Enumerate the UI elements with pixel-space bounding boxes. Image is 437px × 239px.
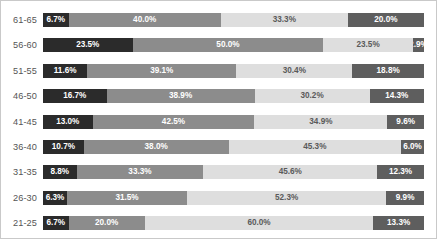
bar-segment: 14.3% <box>370 89 424 103</box>
segment-value-label: 33.3% <box>128 165 151 179</box>
bar-segment: 23.5% <box>43 38 133 52</box>
segment-value-label: 13.0% <box>56 115 79 129</box>
bar-segment: 52.3% <box>187 191 386 205</box>
bar-track: 6.7%20.0%60.0%13.3% <box>43 216 424 230</box>
segment-value-label: 38.9% <box>169 89 192 103</box>
bar-segment: 38.0% <box>84 140 229 154</box>
bar-segment: 20.0% <box>69 216 145 230</box>
category-label-41-45: 41-45 <box>1 115 37 129</box>
chart-plot-area: 61-656.7%40.0%33.3%20.0%56-6023.5%50.0%2… <box>1 1 436 238</box>
segment-value-label: 31.5% <box>115 191 138 205</box>
bar-track: 6.3%31.5%52.3%9.9% <box>43 191 424 205</box>
bar-segment: 50.0% <box>133 38 324 52</box>
bar-segment: 38.9% <box>107 89 255 103</box>
segment-value-label: 14.3% <box>385 89 408 103</box>
segment-value-label: 42.5% <box>162 115 185 129</box>
bar-track: 10.7%38.0%45.3%6.0% <box>43 140 424 154</box>
bar-track: 6.7%40.0%33.3%20.0% <box>43 13 424 27</box>
bar-segment: 6.7% <box>43 13 69 27</box>
bar-segment: 6.0% <box>401 140 424 154</box>
bar-segment: 6.3% <box>43 191 67 205</box>
bar-row: 51-5511.6%39.1%30.4%18.8% <box>1 64 436 78</box>
segment-value-label: 6.3% <box>46 191 65 205</box>
segment-value-label: 6.7% <box>46 13 65 27</box>
segment-value-label: 12.3% <box>389 165 412 179</box>
bar-segment: 8.8% <box>43 165 77 179</box>
bar-segment: 60.0% <box>145 216 374 230</box>
bar-segment: 39.1% <box>87 64 236 78</box>
bar-segment: 40.0% <box>69 13 221 27</box>
segment-value-label: 60.0% <box>247 216 270 230</box>
bar-segment: 18.8% <box>352 64 424 78</box>
segment-value-label: 38.0% <box>145 140 168 154</box>
bar-segment: 11.6% <box>43 64 87 78</box>
segment-value-label: 9.6% <box>396 115 415 129</box>
bar-segment: 13.3% <box>373 216 424 230</box>
bar-segment: 9.6% <box>387 115 424 129</box>
bar-row: 26-306.3%31.5%52.3%9.9% <box>1 191 436 205</box>
bar-row: 36-4010.7%38.0%45.3%6.0% <box>1 140 436 154</box>
category-label-31-35: 31-35 <box>1 165 37 179</box>
bar-segment: 42.5% <box>93 115 255 129</box>
segment-value-label: 13.3% <box>387 216 410 230</box>
category-label-61-65: 61-65 <box>1 13 37 27</box>
bar-segment: 2.9% <box>413 38 424 52</box>
bar-track: 11.6%39.1%30.4%18.8% <box>43 64 424 78</box>
category-label-46-50: 46-50 <box>1 89 37 103</box>
bar-segment: 30.2% <box>255 89 370 103</box>
segment-value-label: 23.5% <box>356 38 379 52</box>
segment-value-label: 40.0% <box>133 13 156 27</box>
segment-value-label: 33.3% <box>273 13 296 27</box>
bar-segment: 10.7% <box>43 140 84 154</box>
category-label-36-40: 36-40 <box>1 140 37 154</box>
segment-value-label: 30.2% <box>300 89 323 103</box>
segment-value-label: 20.0% <box>95 216 118 230</box>
segment-value-label: 2.9% <box>413 38 424 52</box>
segment-value-label: 16.7% <box>63 89 86 103</box>
segment-value-label: 34.9% <box>309 115 332 129</box>
segment-value-label: 39.1% <box>150 64 173 78</box>
bar-row: 56-6023.5%50.0%23.5%2.9% <box>1 38 436 52</box>
bar-segment: 13.0% <box>43 115 93 129</box>
bar-segment: 30.4% <box>236 64 352 78</box>
bar-segment: 9.9% <box>386 191 424 205</box>
segment-value-label: 10.7% <box>52 140 75 154</box>
segment-value-label: 45.6% <box>279 165 302 179</box>
segment-value-label: 23.5% <box>76 38 99 52</box>
bar-segment: 31.5% <box>67 191 187 205</box>
segment-value-label: 11.6% <box>54 64 77 78</box>
bar-segment: 45.3% <box>229 140 402 154</box>
stacked-bar-chart: 61-656.7%40.0%33.3%20.0%56-6023.5%50.0%2… <box>0 0 437 239</box>
bar-track: 8.8%33.3%45.6%12.3% <box>43 165 424 179</box>
bar-row: 46-5016.7%38.9%30.2%14.3% <box>1 89 436 103</box>
bar-segment: 23.5% <box>323 38 413 52</box>
category-label-51-55: 51-55 <box>1 64 37 78</box>
segment-value-label: 45.3% <box>303 140 326 154</box>
bar-segment: 20.0% <box>348 13 424 27</box>
bar-row: 41-4513.0%42.5%34.9%9.6% <box>1 115 436 129</box>
segment-value-label: 6.0% <box>403 140 422 154</box>
category-label-56-60: 56-60 <box>1 38 37 52</box>
bar-segment: 34.9% <box>254 115 387 129</box>
segment-value-label: 50.0% <box>216 38 239 52</box>
bar-segment: 16.7% <box>43 89 107 103</box>
segment-value-label: 52.3% <box>275 191 298 205</box>
category-label-26-30: 26-30 <box>1 191 37 205</box>
category-label-21-25: 21-25 <box>1 216 37 230</box>
bar-segment: 6.7% <box>43 216 69 230</box>
segment-value-label: 6.7% <box>46 216 65 230</box>
bar-row: 61-656.7%40.0%33.3%20.0% <box>1 13 436 27</box>
segment-value-label: 30.4% <box>283 64 306 78</box>
bar-track: 23.5%50.0%23.5%2.9% <box>43 38 424 52</box>
bar-segment: 33.3% <box>77 165 204 179</box>
bar-track: 16.7%38.9%30.2%14.3% <box>43 89 424 103</box>
bar-segment: 45.6% <box>203 165 377 179</box>
segment-value-label: 18.8% <box>377 64 400 78</box>
segment-value-label: 9.9% <box>396 191 415 205</box>
segment-value-label: 8.8% <box>50 165 69 179</box>
bar-segment: 12.3% <box>377 165 424 179</box>
bar-row: 31-358.8%33.3%45.6%12.3% <box>1 165 436 179</box>
bar-row: 21-256.7%20.0%60.0%13.3% <box>1 216 436 230</box>
segment-value-label: 20.0% <box>374 13 397 27</box>
bar-segment: 33.3% <box>221 13 348 27</box>
